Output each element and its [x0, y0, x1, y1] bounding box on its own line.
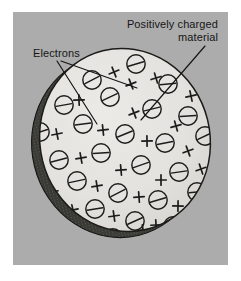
- label-positive-line2: material: [178, 31, 218, 43]
- electron-symbol: [164, 217, 182, 235]
- electron-symbol: [210, 153, 228, 171]
- positive-charge-symbol: [186, 233, 200, 247]
- label-electrons: Electrons: [33, 47, 80, 60]
- electron-symbol: [34, 63, 52, 81]
- positive-charge-symbol: [103, 238, 115, 250]
- electron-symbol: [201, 208, 219, 226]
- positive-charge-symbol: [207, 101, 219, 113]
- label-positive-line1: Positively charged: [127, 18, 218, 30]
- figure-container: Electrons Positively chargedmaterial: [0, 0, 241, 281]
- electron-symbol: [79, 251, 97, 265]
- electron-symbol: [120, 250, 138, 265]
- illustration-panel: Electrons Positively chargedmaterial: [13, 12, 228, 265]
- electron-symbol: [190, 66, 208, 84]
- label-positively-charged-material: Positively chargedmaterial: [127, 18, 218, 43]
- electron-symbol: [142, 239, 160, 257]
- positive-charge-symbol: [62, 231, 75, 244]
- positive-charge-symbol: [44, 239, 55, 250]
- positive-charge-symbol: [26, 205, 39, 218]
- electron-symbol: [64, 231, 82, 249]
